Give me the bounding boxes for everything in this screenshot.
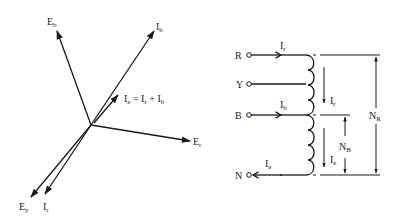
- terminal-b-label: B: [235, 110, 242, 121]
- terminal-n-label: N: [235, 170, 242, 181]
- dim-nr-label: NR: [369, 110, 381, 123]
- terminal-y-label: Y: [236, 79, 243, 90]
- current-ib-in-label: Ib: [280, 99, 287, 112]
- vector-ie-arrow: [94, 95, 118, 123]
- current-ir-in-label: Ir: [280, 40, 286, 53]
- current-ie-down-label: Ie: [330, 154, 336, 167]
- label-ey: Ey: [19, 201, 29, 214]
- label-er: Er: [193, 136, 202, 149]
- current-ir-down-label: Ir: [330, 95, 336, 108]
- terminal-y: [247, 82, 252, 87]
- diagram-canvas: Eb Ib Ie = Ir + Ib Er Ey Ir R Y B N: [0, 0, 402, 222]
- label-eb: Eb: [47, 16, 57, 29]
- dim-nb-label: NB: [339, 141, 351, 154]
- phasor-diagram: Eb Ib Ie = Ir + Ib Er Ey Ir: [19, 16, 202, 214]
- label-ir: Ir: [43, 201, 49, 214]
- terminal-r-label: R: [235, 50, 242, 61]
- vector-ir-arrow: [45, 125, 91, 194]
- current-ie-out-label: Ie: [265, 158, 271, 171]
- winding-diagram: R Y B N Ir Ie Ir Ib Ie: [235, 40, 381, 181]
- vector-er-arrow: [91, 125, 190, 141]
- winding-coil: [306, 55, 314, 175]
- vector-ey-arrow: [31, 125, 91, 197]
- terminal-b: [247, 113, 252, 118]
- vector-eb-arrow: [57, 31, 91, 125]
- label-ie-equation: Ie = Ir + Ib: [124, 93, 165, 106]
- vector-ib-arrow: [91, 31, 154, 125]
- terminal-r: [247, 53, 252, 58]
- label-ib: Ib: [156, 21, 163, 34]
- terminal-n: [247, 173, 252, 178]
